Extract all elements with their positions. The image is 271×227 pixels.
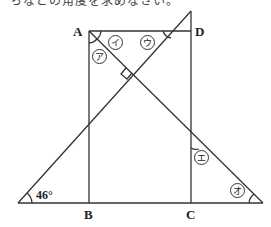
angle-marker-a: ア [92,49,107,64]
angle-marker-e: エ [194,150,209,165]
angle-arc-46 [27,193,32,203]
point-label-C: C [186,208,195,221]
point-label-B: B [84,208,93,221]
point-label-D: D [195,25,204,38]
given-angle-label: 46° [36,188,53,203]
angle-marker-o: オ [230,183,245,198]
angle-arc-o [249,194,254,203]
point-label-A: A [73,25,82,38]
line-right-diagonal [89,31,263,203]
angle-marker-u: ウ [140,35,155,50]
angle-arc-e [191,148,199,149]
angle-marker-i: イ [108,35,123,50]
angle-arc-i [97,31,101,39]
angle-arc-a [89,39,97,43]
